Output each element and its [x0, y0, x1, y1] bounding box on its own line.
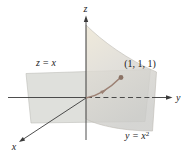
cylinder-equation-base: y = x — [124, 130, 146, 141]
cylinder-equation-exponent: 2 — [146, 130, 150, 138]
point-coordinates-label: (1, 1, 1) — [124, 58, 156, 70]
figure-canvas: z = x (1, 1, 1) y = x2 z y x — [0, 0, 183, 159]
figure-3d-curve-intersection: z = x (1, 1, 1) y = x2 z y x — [0, 0, 183, 159]
x-axis-arrowhead-icon — [19, 137, 25, 142]
y-axis-label: y — [175, 92, 181, 103]
y-axis-arrowhead-icon — [166, 95, 173, 100]
z-axis-label: z — [83, 3, 88, 14]
point-1-1-1-dot — [119, 75, 124, 80]
x-axis-label: x — [11, 141, 17, 152]
cylinder-equation-label: y = x2 — [124, 130, 150, 142]
plane-equation-label: z = x — [35, 57, 57, 68]
z-axis-arrowhead-icon — [84, 16, 88, 23]
